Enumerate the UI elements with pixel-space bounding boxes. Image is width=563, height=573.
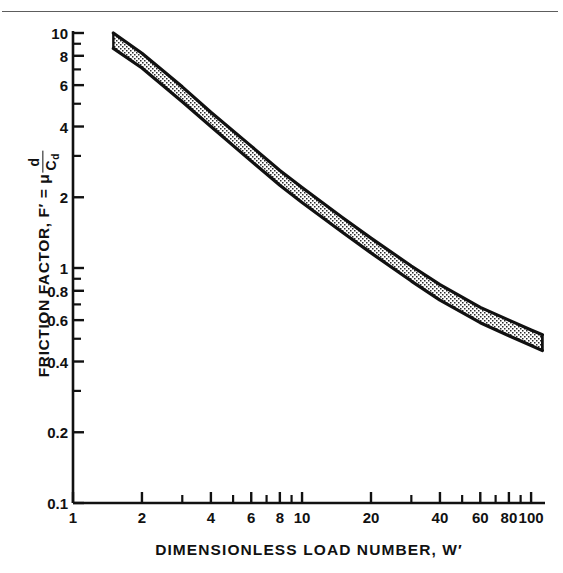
plot-canvas [0,0,563,573]
data-band [113,33,542,351]
axis-lines-and-ticks [73,31,545,503]
band-upper-edge [113,33,542,335]
figure-chart: FRICTION FACTOR, F′ = μdCd 10864210.80.6… [0,0,563,573]
band-fill [113,33,542,351]
